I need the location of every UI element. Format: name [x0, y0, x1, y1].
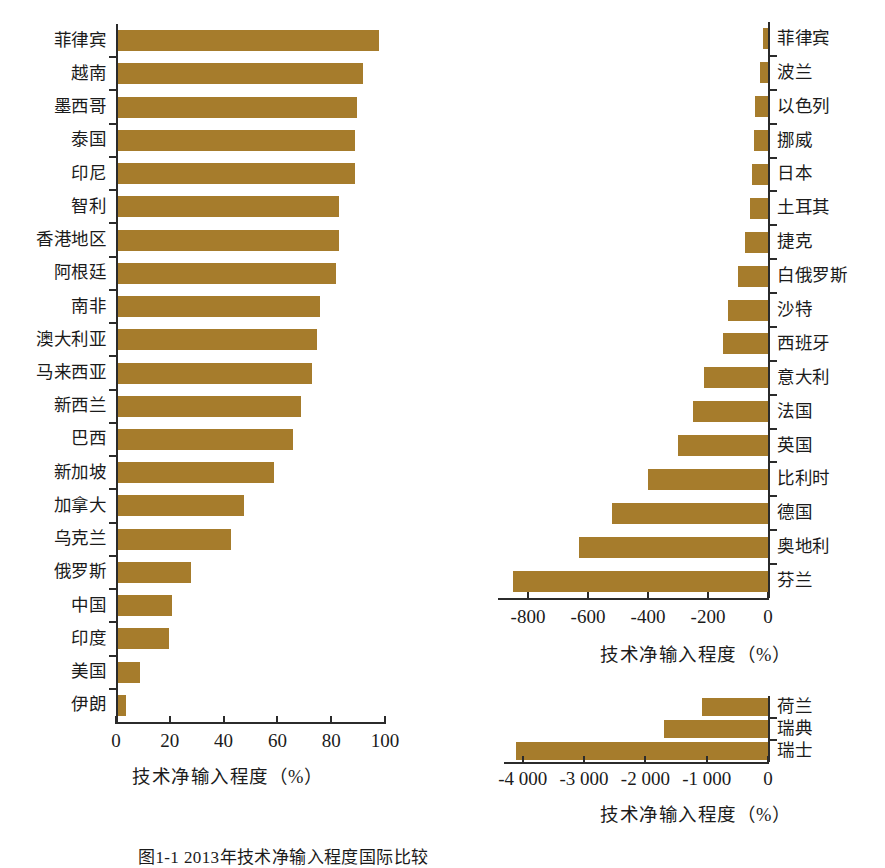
y-axis-tick — [770, 529, 777, 531]
category-label: 越南 — [71, 65, 106, 83]
category-label: 以色列 — [777, 98, 830, 116]
y-axis-line — [768, 696, 770, 762]
bar — [118, 595, 172, 616]
bar — [118, 495, 244, 516]
y-axis-tick — [109, 156, 116, 158]
category-label: 比利时 — [777, 470, 830, 488]
category-label: 泰国 — [71, 131, 106, 149]
bar — [754, 130, 768, 151]
x-axis-line — [116, 722, 385, 724]
bar — [118, 695, 126, 716]
x-axis-tick-label: 0 — [723, 606, 813, 628]
y-axis-tick — [109, 56, 116, 58]
x-axis-tick — [644, 756, 646, 764]
bar — [118, 363, 312, 384]
category-label: 菲律宾 — [777, 30, 830, 48]
bar — [760, 62, 768, 83]
chart-panel-right-bottom: 荷兰瑞典瑞士-4 000-3 000-2 000-1 0000技术净输入程度（%… — [470, 690, 885, 830]
bar — [118, 63, 363, 84]
x-axis-tick — [384, 716, 386, 724]
category-label: 马来西亚 — [36, 364, 106, 382]
x-axis-tick — [115, 716, 117, 724]
x-axis-title: 技术净输入程度（%） — [600, 800, 791, 826]
x-axis-tick — [527, 592, 529, 600]
category-label: 意大利 — [777, 369, 830, 387]
bar — [704, 367, 769, 388]
y-axis-tick — [109, 322, 116, 324]
y-axis-tick — [109, 621, 116, 623]
y-axis-tick — [109, 89, 116, 91]
x-axis-tick — [583, 756, 585, 764]
category-label: 捷克 — [777, 233, 812, 251]
y-axis-tick — [109, 256, 116, 258]
bar — [516, 742, 768, 760]
y-axis-tick — [109, 189, 116, 191]
category-label: 土耳其 — [777, 199, 830, 217]
category-label: 墨西哥 — [54, 98, 107, 116]
y-axis-tick — [109, 422, 116, 424]
x-axis-tick-label: 100 — [340, 730, 430, 752]
y-axis-line — [768, 22, 770, 598]
bar — [648, 469, 768, 490]
category-label: 智利 — [71, 198, 106, 216]
category-label: 南非 — [71, 298, 106, 316]
y-axis-tick — [109, 123, 116, 125]
category-label: 加拿大 — [54, 497, 107, 515]
category-label: 挪威 — [777, 132, 812, 150]
bar — [118, 230, 339, 251]
category-label: 英国 — [777, 437, 812, 455]
y-axis-tick — [109, 355, 116, 357]
category-label: 波兰 — [777, 64, 812, 82]
category-label: 印度 — [71, 630, 106, 648]
bar — [664, 720, 768, 738]
category-label: 西班牙 — [777, 335, 830, 353]
category-label: 日本 — [777, 165, 812, 183]
bar — [755, 96, 768, 117]
bar — [693, 401, 768, 422]
chart-panel-left: 菲律宾越南墨西哥泰国印尼智利香港地区阿根廷南非澳大利亚马来西亚新西兰巴西新加坡加… — [0, 0, 470, 800]
y-axis-tick — [770, 326, 777, 328]
category-label: 新加坡 — [54, 464, 107, 482]
bar — [118, 196, 339, 217]
y-axis-tick — [770, 563, 777, 565]
x-axis-tick — [706, 756, 708, 764]
bar — [745, 232, 768, 253]
category-label: 乌克兰 — [54, 530, 107, 548]
y-axis-tick — [109, 289, 116, 291]
y-axis-tick — [109, 588, 116, 590]
bar — [750, 198, 768, 219]
bar — [513, 571, 768, 592]
y-axis-tick — [770, 190, 777, 192]
x-axis-tick — [767, 756, 769, 764]
bar — [728, 300, 769, 321]
y-axis-tick — [109, 655, 116, 657]
bar — [118, 396, 301, 417]
bar — [118, 628, 169, 649]
category-label: 奥地利 — [777, 538, 830, 556]
y-axis-tick — [770, 739, 777, 741]
x-axis-title: 技术净输入程度（%） — [132, 762, 323, 788]
category-label: 芬兰 — [777, 572, 812, 590]
y-axis-tick — [770, 428, 777, 430]
bar — [118, 429, 293, 450]
y-axis-tick — [770, 495, 777, 497]
category-label: 德国 — [777, 504, 812, 522]
category-label: 菲律宾 — [54, 32, 107, 50]
bar — [702, 698, 768, 716]
bar — [118, 329, 317, 350]
bar — [118, 662, 140, 683]
y-axis-tick — [109, 488, 116, 490]
bar — [579, 537, 768, 558]
category-label: 沙特 — [777, 301, 812, 319]
bar — [118, 263, 336, 284]
bar — [118, 130, 355, 151]
bar — [118, 296, 320, 317]
x-axis-tick — [223, 716, 225, 724]
category-label: 巴西 — [71, 430, 106, 448]
y-axis-tick — [770, 55, 777, 57]
x-axis-title: 技术净输入程度（%） — [600, 640, 791, 666]
y-axis-tick — [770, 292, 777, 294]
category-label: 荷兰 — [777, 698, 812, 716]
x-axis-line — [498, 598, 768, 600]
bar — [763, 28, 768, 49]
